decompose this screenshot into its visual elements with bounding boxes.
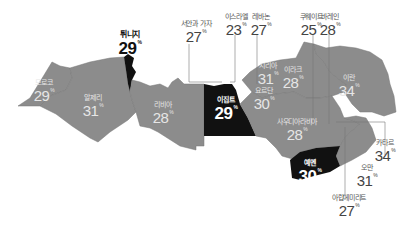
label-libya: 리비아 28% [153,102,174,125]
label-jordan: 요르단 30% [254,88,275,111]
label-bahrain: 바레인 28% [320,14,341,37]
label-uae: 아랍에미리트 27% [332,195,366,218]
label-west-bank-gaza: 서안과 가자 27% [181,21,211,44]
label-qatar: 카타르 34% [375,140,396,163]
label-israel: 이스라엘 23% [225,14,248,37]
label-saudi-arabia: 사우디아라비아 28% [277,119,317,142]
label-oman: 오만 31% [357,165,378,188]
label-syria: 시리아 31% [258,63,279,86]
label-yemen: 예멘 30% [299,160,322,185]
label-lebanon: 레바논 27% [251,14,272,37]
label-algeria: 알제리 31% [83,95,104,118]
label-iran: 이란 34% [339,75,360,98]
label-tunisia: 튀니지 29% [119,31,142,57]
label-morocco: 모로코 29% [34,80,55,103]
label-egypt: 이집트 29% [215,97,238,122]
label-iraq: 이라크 28% [283,67,304,90]
